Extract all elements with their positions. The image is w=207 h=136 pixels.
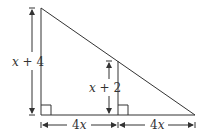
inner-height-dimension: x + 2 bbox=[89, 61, 121, 113]
left-base-label: 4x bbox=[72, 118, 87, 132]
inner-height-label: x + 2 bbox=[89, 81, 121, 95]
right-base-dimension: 4x bbox=[118, 118, 195, 132]
right-angle-marker-left bbox=[41, 105, 51, 115]
right-angle-marker-inner bbox=[118, 105, 128, 115]
left-base-dimension: 4x bbox=[41, 118, 116, 132]
outer-height-label: x + 4 bbox=[12, 55, 44, 69]
similar-triangles-diagram: x + 4 x + 2 4x 4x bbox=[0, 0, 207, 136]
outer-height-dimension: x + 4 bbox=[12, 8, 44, 115]
right-base-label: 4x bbox=[150, 118, 165, 132]
